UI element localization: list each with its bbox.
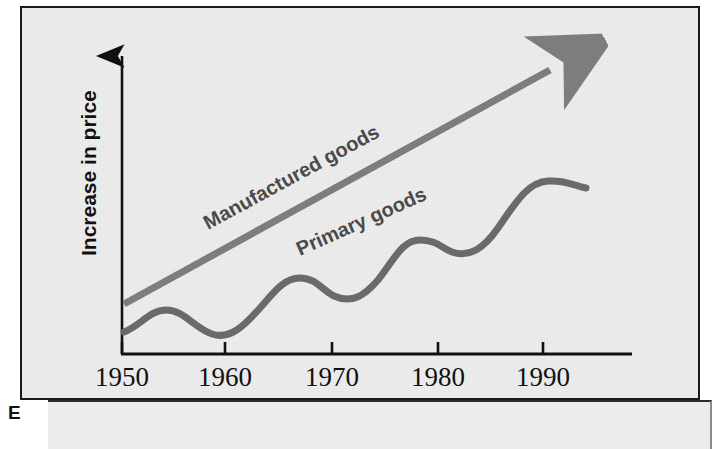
x-tick-label-1970: 1970 (305, 362, 359, 392)
figure-page: 1950 1960 1970 1980 1990 Increase in pri… (0, 0, 712, 449)
primary-goods-label: Primary goods (293, 183, 430, 260)
section-letter: E (8, 402, 21, 424)
figure-panel: 1950 1960 1970 1980 1990 Increase in pri… (20, 6, 700, 400)
caption-strip-panel (48, 400, 712, 449)
x-tick-label-1980: 1980 (411, 362, 465, 392)
x-tick-label-1950: 1950 (95, 362, 149, 392)
manufactured-goods-trend-line (124, 70, 550, 304)
x-tick-label-1960: 1960 (198, 362, 252, 392)
x-tick-label-1990: 1990 (516, 362, 570, 392)
primary-goods-curve (124, 181, 586, 336)
caption-strip: E (0, 400, 712, 449)
price-trend-chart: 1950 1960 1970 1980 1990 Increase in pri… (22, 8, 698, 398)
x-axis-ticks (122, 342, 543, 354)
y-axis-label: Increase in price (77, 90, 100, 256)
